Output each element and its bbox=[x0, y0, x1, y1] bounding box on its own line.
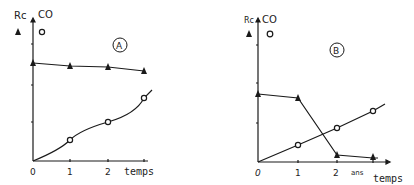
panel-a-y-arrow-icon bbox=[31, 18, 35, 22]
panel-a-y-right-label: CO bbox=[38, 9, 53, 20]
diagram-canvas: Rc CO A 0 1 2 temps Rc CO B 0 1 2 ans te… bbox=[0, 0, 414, 185]
panel-b bbox=[256, 18, 390, 164]
panel-b-y-right-label: CO bbox=[262, 14, 277, 25]
panel-a bbox=[31, 18, 152, 162]
circle-marker-icon bbox=[370, 108, 375, 113]
panel-a-co-curve bbox=[33, 90, 152, 161]
panel-a-rc-legend-triangle-icon bbox=[15, 28, 21, 35]
panel-b-y-arrow-icon bbox=[256, 18, 260, 22]
panel-b-x-title: temps bbox=[373, 173, 403, 184]
triangle-marker-icon bbox=[255, 90, 261, 97]
circle-marker-icon bbox=[141, 95, 146, 100]
panel-b-x-unit: ans bbox=[351, 169, 364, 177]
panel-b-tick-1: 1 bbox=[295, 168, 301, 178]
triangle-marker-icon bbox=[370, 153, 376, 160]
panel-a-co-legend-circle-icon bbox=[39, 29, 44, 34]
panel-a-rc-line bbox=[33, 63, 144, 71]
panel-b-rc-markers bbox=[255, 90, 376, 160]
panel-b-y-left-label: Rc bbox=[244, 16, 254, 25]
panel-a-y-left-label: Rc bbox=[14, 10, 26, 21]
circle-marker-icon bbox=[295, 142, 300, 147]
triangle-marker-icon bbox=[30, 59, 36, 66]
panel-a-tick-1: 1 bbox=[67, 167, 73, 177]
panel-b-rc-line bbox=[258, 94, 378, 158]
circle-marker-icon bbox=[334, 125, 339, 130]
panel-b-co-legend-circle-icon bbox=[267, 31, 273, 37]
panel-b-x-arrow-icon bbox=[386, 160, 390, 164]
panel-a-tick-0: 0 bbox=[30, 167, 36, 177]
panel-a-tick-2: 2 bbox=[105, 167, 111, 177]
panel-b-co-markers bbox=[295, 108, 375, 147]
panel-b-tick-0: 0 bbox=[255, 168, 261, 178]
panel-a-co-markers bbox=[67, 95, 146, 142]
panel-a-label: A bbox=[116, 41, 123, 51]
circle-marker-icon bbox=[67, 137, 72, 142]
panel-b-tick-2: 2 bbox=[333, 168, 339, 178]
panel-a-x-title: temps bbox=[124, 166, 154, 177]
panel-b-label: B bbox=[333, 46, 339, 56]
panel-b-rc-legend-triangle-icon bbox=[246, 30, 252, 37]
circle-marker-icon bbox=[105, 119, 110, 124]
